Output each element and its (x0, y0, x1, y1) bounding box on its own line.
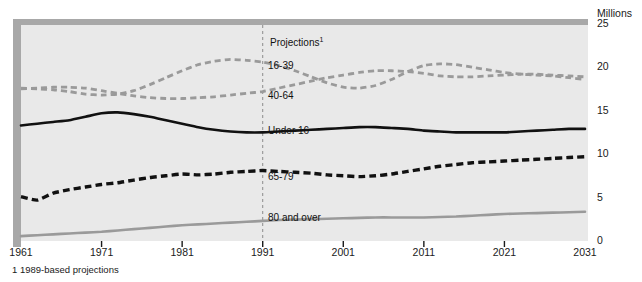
y-axis-tick-label: 0 (597, 235, 603, 246)
x-axis-tick-label: 1961 (9, 247, 32, 258)
chart-footnote: 1 1989-based projections (12, 265, 119, 275)
x-axis-tick-label: 2001 (332, 247, 355, 258)
x-axis-tick-label: 1981 (170, 247, 193, 258)
annotation-under-16: Under 16 (268, 126, 309, 136)
y-axis-tick-label: 15 (597, 105, 609, 116)
series-line-65-79 (21, 157, 585, 200)
series-line-16-39 (21, 59, 585, 95)
x-axis-tick-label: 2031 (573, 247, 596, 258)
y-axis-tick-label: 5 (597, 192, 603, 203)
annotation-projections: Projections1 (270, 38, 323, 48)
annotation-80-and-over: 80 and over (268, 213, 321, 223)
footnote-marker: 1 (319, 36, 323, 43)
annotation-40-64: 40-64 (268, 91, 294, 101)
x-axis-tick-label: 2021 (493, 247, 516, 258)
x-axis-tick-label: 2011 (413, 247, 436, 258)
x-axis-tick-label: 1971 (90, 247, 113, 258)
y-axis-tick-label: 10 (597, 148, 609, 159)
y-axis-tick-label: 20 (597, 61, 609, 72)
x-axis-tick-label: 1991 (251, 247, 274, 258)
y-axis-tick-label: 25 (597, 18, 609, 29)
annotation-65-79: 65-79 (268, 172, 294, 182)
annotation-16-39: 16-39 (268, 61, 294, 71)
chart-figure: Millions 0510152025 19611971198119912001… (0, 0, 642, 282)
